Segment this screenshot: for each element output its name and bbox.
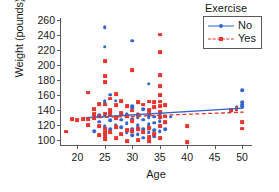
x-tick-mark: [105, 145, 106, 149]
legend-title: Exercise: [205, 2, 247, 14]
y-tick-label: 100: [37, 134, 55, 146]
x-tick-label: 45: [209, 151, 221, 163]
y-tick-label: 180: [37, 74, 55, 86]
legend-item-no[interactable]: No: [208, 19, 256, 32]
legend-item-yes[interactable]: Yes: [208, 32, 256, 45]
y-tick-label: 240: [37, 29, 55, 41]
x-tick-mark: [215, 145, 216, 149]
y-axis-title: Weight (pounds): [13, 0, 25, 98]
scatter-plot-figure: Weight (pounds) Age 10012014016018020022…: [0, 0, 279, 192]
y-tick-label: 160: [37, 89, 55, 101]
x-tick-label: 40: [181, 151, 193, 163]
x-tick-mark: [132, 145, 133, 149]
legend-label-yes: Yes: [238, 33, 256, 44]
y-tick-label: 260: [37, 14, 55, 26]
legend-box: NoYes: [203, 16, 262, 49]
y-tick-label: 200: [37, 59, 55, 71]
legend-key-no-icon: [208, 20, 234, 31]
y-tick-label: 120: [37, 119, 55, 131]
x-tick-mark: [242, 145, 243, 149]
y-tick-label: 140: [37, 104, 55, 116]
legend-label-no: No: [238, 20, 252, 31]
x-axis-title: Age: [60, 168, 252, 180]
x-tick-label: 50: [236, 151, 248, 163]
y-tick-label: 220: [37, 44, 55, 56]
x-tick-label: 35: [154, 151, 166, 163]
x-tick-mark: [160, 145, 161, 149]
x-tick-mark: [187, 145, 188, 149]
x-tick-label: 30: [126, 151, 138, 163]
x-tick-label: 20: [72, 151, 84, 163]
fit-line-no: [86, 108, 244, 118]
x-tick-label: 25: [99, 151, 111, 163]
legend-key-yes-icon: [208, 33, 234, 44]
x-tick-mark: [77, 145, 78, 149]
